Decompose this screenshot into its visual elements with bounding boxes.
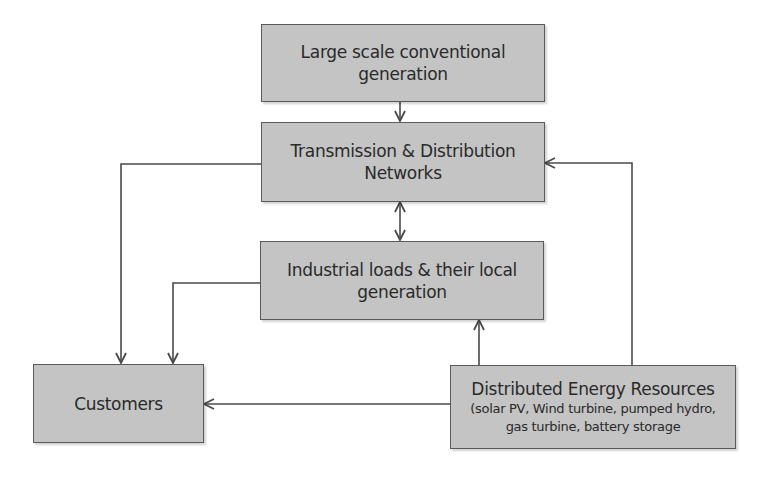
node-subtitle: (solar PV, Wind turbine, pumped hydro, xyxy=(470,400,715,418)
node-td-networks: Transmission & Distribution Networks xyxy=(261,122,545,202)
node-title: Customers xyxy=(74,393,163,415)
node-title: Industrial loads & their local xyxy=(287,259,517,281)
node-title: Distributed Energy Resources xyxy=(471,378,714,400)
node-customers: Customers xyxy=(33,364,204,443)
node-title: generation xyxy=(357,281,446,303)
edge-industrial-to-customers xyxy=(173,283,260,363)
edge-td-to-customers xyxy=(121,164,261,363)
node-subtitle: gas turbine, battery storage xyxy=(506,418,681,436)
node-title: generation xyxy=(358,63,447,85)
node-title: Transmission & Distribution xyxy=(291,140,516,162)
edge-der-to-td xyxy=(545,163,632,365)
node-industrial-loads: Industrial loads & their local generatio… xyxy=(260,241,544,320)
node-der: Distributed Energy Resources (solar PV, … xyxy=(450,365,736,449)
node-title: Networks xyxy=(364,162,441,184)
node-title: Large scale conventional xyxy=(301,41,506,63)
node-large-scale-generation: Large scale conventional generation xyxy=(261,24,545,102)
